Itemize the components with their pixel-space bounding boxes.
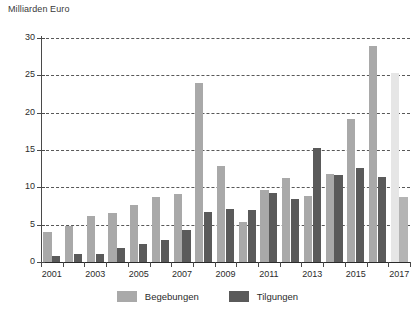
bar-group [347,38,364,262]
bar-tilgungen [182,230,190,262]
bar-chart: Milliarden Euro 051015202530 20012003200… [0,0,415,315]
y-tick-label: 20 [5,107,35,117]
bar-group [326,38,343,262]
x-tick-mark [345,262,346,267]
bar-begebungen [326,174,334,262]
bar-group [87,38,104,262]
x-tick-mark [41,262,42,267]
x-tick-mark [63,262,64,267]
y-tick-label: 30 [5,32,35,42]
bar-tilgungen [356,168,364,262]
bar-group [130,38,147,262]
legend-swatch-icon [229,291,249,302]
y-tick-label: 0 [5,256,35,266]
x-tick-label: 2017 [379,269,415,279]
x-tick-mark [150,262,151,267]
x-tick-label: 2005 [119,269,159,279]
bar-group [174,38,191,262]
bar-group [217,38,234,262]
bar-tilgungen [334,175,342,262]
y-axis-title: Milliarden Euro [8,4,70,14]
y-tick-label: 25 [5,69,35,79]
x-tick-mark [84,262,85,267]
bar-group [391,38,408,262]
bar-tilgungen [139,244,147,262]
x-tick-label: 2003 [75,269,115,279]
y-tick-label: 15 [5,144,35,154]
bar-begebungen [152,197,160,262]
legend-label: Tilgungen [257,291,298,302]
bar-group [152,38,169,262]
legend-item[interactable]: Begebungen [117,291,199,302]
x-tick-mark [280,262,281,267]
y-tick-label: 5 [5,219,35,229]
bar-begebungen [195,83,203,262]
bar-tilgungen [399,197,407,262]
bar-group [195,38,212,262]
bar-group [260,38,277,262]
bar-tilgungen [161,240,169,262]
bar-tilgungen [269,193,277,262]
bar-tilgungen [248,210,256,262]
bar-begebungen [391,73,399,262]
chart-legend: BegebungenTilgungen [0,291,415,302]
bar-group [369,38,386,262]
x-tick-label: 2013 [292,269,332,279]
x-tick-mark [367,262,368,267]
bar-begebungen [260,190,268,262]
bar-tilgungen [204,212,212,262]
legend-item[interactable]: Tilgungen [229,291,298,302]
bar-begebungen [239,222,247,262]
bar-tilgungen [226,209,234,262]
bar-begebungen [43,232,51,262]
bar-tilgungen [378,177,386,262]
x-tick-mark [388,262,389,267]
x-tick-mark [128,262,129,267]
bar-group [65,38,82,262]
bar-begebungen [87,216,95,262]
bar-groups [41,38,410,262]
bar-begebungen [108,213,116,262]
x-tick-mark [301,262,302,267]
bar-group [239,38,256,262]
x-tick-mark [106,262,107,267]
x-tick-label: 2011 [249,269,289,279]
bar-tilgungen [291,199,299,262]
bar-begebungen [369,46,377,262]
bar-begebungen [282,178,290,262]
bar-begebungen [130,205,138,262]
x-tick-mark [258,262,259,267]
bar-group [304,38,321,262]
gridline [41,262,410,263]
x-tick-mark [323,262,324,267]
bar-begebungen [65,226,73,262]
x-tick-mark [236,262,237,267]
bar-begebungen [347,119,355,262]
bar-begebungen [217,166,225,262]
x-tick-mark [410,262,411,267]
bar-begebungen [304,196,312,262]
bar-tilgungen [117,248,125,262]
x-tick-label: 2007 [162,269,202,279]
bar-begebungen [174,194,182,262]
x-tick-label: 2001 [32,269,72,279]
bar-tilgungen [74,254,82,262]
bar-tilgungen [96,254,104,262]
bar-tilgungen [52,256,60,262]
x-tick-mark [215,262,216,267]
legend-swatch-icon [117,291,137,302]
bar-group [43,38,60,262]
bar-tilgungen [313,148,321,262]
x-tick-label: 2009 [206,269,246,279]
y-tick-label: 10 [5,181,35,191]
x-tick-mark [193,262,194,267]
bar-group [282,38,299,262]
x-tick-mark [171,262,172,267]
bar-group [108,38,125,262]
x-tick-label: 2015 [336,269,376,279]
legend-label: Begebungen [145,291,199,302]
